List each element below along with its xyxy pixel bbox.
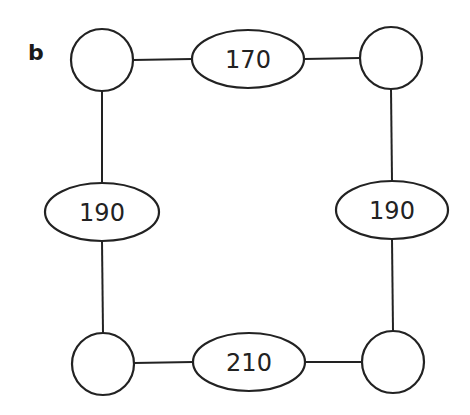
edge-line-left-lower bbox=[102, 241, 103, 333]
edge-line-right-lower bbox=[392, 239, 393, 331]
edge-line-top-left bbox=[133, 59, 192, 60]
edge-weight-right-label: 190 bbox=[369, 197, 415, 225]
node-bottom-left bbox=[72, 333, 134, 395]
node-bottom-right bbox=[362, 331, 424, 393]
edge-weight-bottom-label: 210 bbox=[226, 349, 272, 377]
edge-line-bottom-left bbox=[134, 362, 193, 363]
edge-line-right-upper bbox=[391, 89, 392, 181]
edge-weight-left-label: 190 bbox=[79, 199, 125, 227]
edge-line-top-right bbox=[304, 58, 360, 59]
edge-weight-top-label: 170 bbox=[225, 46, 271, 74]
node-top-left bbox=[71, 29, 133, 91]
graph-diagram: 170 190 190 210 bbox=[0, 0, 470, 415]
node-top-right bbox=[360, 27, 422, 89]
